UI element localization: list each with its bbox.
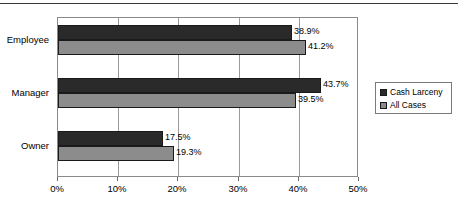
x-tick-label-50: 50% [348, 183, 367, 194]
x-tick-label-0: 0% [50, 183, 64, 194]
legend-label: Cash Larceny [390, 87, 442, 97]
legend-item-all-cases[interactable]: All Cases [380, 99, 451, 111]
horizontal-bar-chart: Cash LarcenyAll Cases 38.9%41.2%43.7%39.… [0, 0, 458, 201]
bar-value-label: 43.7% [323, 79, 349, 90]
bar-manager-all-cases[interactable] [58, 93, 296, 108]
legend-label: All Cases [390, 100, 426, 110]
bar-value-label: 39.5% [298, 94, 324, 105]
bar-employee-cash-larceny[interactable] [58, 25, 292, 40]
bar-value-label: 17.5% [165, 132, 191, 143]
x-tick-mark [177, 177, 178, 181]
chart-legend: Cash LarcenyAll Cases [375, 82, 452, 114]
bar-value-label: 38.9% [294, 26, 320, 37]
bar-owner-all-cases[interactable] [58, 146, 174, 161]
x-tick-mark [238, 177, 239, 181]
dark-square-marker [380, 89, 387, 96]
x-tick-mark [298, 177, 299, 181]
bar-value-label: 41.2% [308, 41, 334, 52]
bar-owner-cash-larceny[interactable] [58, 131, 163, 146]
category-label-owner: Owner [21, 140, 49, 151]
x-tick-mark [117, 177, 118, 181]
x-tick-label-20: 20% [167, 183, 186, 194]
x-tick-mark [358, 177, 359, 181]
gray-square-marker [380, 102, 387, 109]
bar-manager-cash-larceny[interactable] [58, 78, 321, 93]
bar-employee-all-cases[interactable] [58, 40, 306, 55]
x-tick-mark [57, 177, 58, 181]
bar-value-label: 19.3% [176, 147, 202, 158]
x-tick-label-30: 30% [228, 183, 247, 194]
legend-item-cash-larceny[interactable]: Cash Larceny [380, 86, 451, 98]
category-label-employee: Employee [7, 34, 49, 45]
x-tick-label-10: 10% [107, 183, 126, 194]
category-label-manager: Manager [12, 87, 50, 98]
x-tick-label-40: 40% [288, 183, 307, 194]
